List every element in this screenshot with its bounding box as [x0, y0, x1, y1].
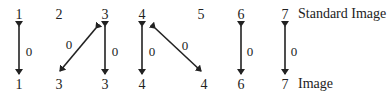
edge-weight-4: 0	[149, 45, 156, 58]
edge-weight-7: 0	[291, 45, 298, 58]
bottom-node-3: 3	[102, 78, 109, 92]
top-node-4: 4	[139, 8, 146, 22]
edge-weight-5: 0	[182, 39, 189, 52]
bottom-node-1: 1	[16, 78, 23, 92]
edge-weight-3: 0	[112, 45, 119, 58]
top-node-2: 2	[56, 8, 63, 22]
edge-weight-1: 0	[26, 45, 33, 58]
top-node-7: 7	[282, 8, 289, 22]
edge-4-4b	[155, 28, 201, 71]
bottom-node-5: 4	[201, 78, 208, 92]
edge-weight-6: 0	[247, 45, 254, 58]
top-node-6: 6	[238, 8, 245, 22]
top-node-3: 3	[102, 8, 109, 22]
bottom-row-label: Image	[298, 77, 333, 91]
bottom-node-4: 4	[139, 78, 146, 92]
bottom-node-7: 7	[282, 78, 289, 92]
top-row-label: Standard Image	[298, 7, 386, 21]
bottom-node-2: 3	[56, 78, 63, 92]
bottom-node-6: 6	[238, 78, 245, 92]
top-node-5: 5	[198, 8, 205, 22]
top-node-1: 1	[16, 8, 23, 22]
edge-weight-2: 0	[66, 38, 73, 51]
